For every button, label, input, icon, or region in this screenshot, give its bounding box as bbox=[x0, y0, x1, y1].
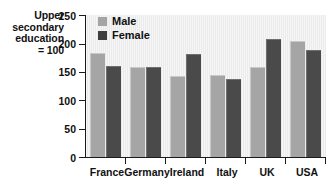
bar-ireland-male bbox=[170, 76, 185, 157]
y-axis-label: 150 bbox=[40, 67, 76, 77]
bar-usa-female bbox=[306, 50, 321, 157]
bar-france-female bbox=[106, 66, 121, 157]
legend-swatch-female-icon bbox=[98, 31, 107, 40]
legend-item-female: Female bbox=[98, 29, 150, 42]
bar-group bbox=[290, 15, 328, 157]
chart-legend: Male Female bbox=[98, 15, 150, 43]
bar-italy-female bbox=[226, 79, 241, 157]
bar-chart: Upper secondary education = 100 05010015… bbox=[0, 0, 330, 187]
bar-uk-male bbox=[250, 67, 265, 157]
bar-italy-male bbox=[210, 75, 225, 157]
x-axis-tick bbox=[165, 158, 166, 164]
x-axis-tick bbox=[245, 158, 246, 164]
bar-group bbox=[250, 15, 288, 157]
y-axis-label: 0 bbox=[40, 153, 76, 163]
bar-germany-female bbox=[146, 67, 161, 157]
x-axis-tick bbox=[285, 158, 286, 164]
bar-group bbox=[210, 15, 248, 157]
legend-swatch-male-icon bbox=[98, 17, 107, 26]
x-axis-tick bbox=[205, 158, 206, 164]
legend-label-female: Female bbox=[112, 30, 150, 41]
legend-item-male: Male bbox=[98, 15, 150, 28]
bar-usa-male bbox=[290, 41, 305, 157]
x-axis-tick bbox=[125, 158, 126, 164]
x-axis-label-usa: USA bbox=[281, 166, 330, 178]
y-axis-label: 200 bbox=[40, 39, 76, 49]
y-axis-label: 100 bbox=[40, 96, 76, 106]
y-axis-label: 50 bbox=[40, 124, 76, 134]
bar-france-male bbox=[90, 53, 105, 157]
bar-uk-female bbox=[266, 39, 281, 157]
y-axis-label: 250 bbox=[40, 11, 76, 21]
x-axis-tick bbox=[325, 158, 326, 164]
bar-group bbox=[170, 15, 208, 157]
bar-germany-male bbox=[130, 67, 145, 157]
legend-label-male: Male bbox=[112, 16, 136, 27]
bar-ireland-female bbox=[186, 54, 201, 157]
